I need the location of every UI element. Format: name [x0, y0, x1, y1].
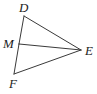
geometry-figure: D M F E	[0, 0, 97, 94]
segments-group	[14, 16, 81, 74]
segment-mf	[14, 44, 19, 74]
segment-dm	[19, 16, 24, 44]
segment-fe	[14, 50, 81, 74]
vertex-label-m: M	[3, 37, 14, 50]
vertex-label-e: E	[85, 44, 93, 57]
vertex-label-f: F	[9, 77, 17, 90]
vertex-label-d: D	[19, 1, 28, 14]
